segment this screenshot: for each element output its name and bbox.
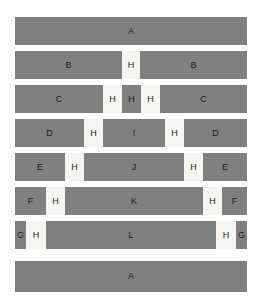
bar-row: EHJHE — [15, 153, 247, 181]
bar-segment-h: H — [122, 85, 141, 113]
bar-segment-a: A — [15, 17, 247, 45]
bar-segment-c: C — [160, 85, 247, 113]
bar-row: BHB — [15, 51, 247, 79]
bar-segment-k: K — [65, 187, 203, 215]
bar-segment-c: C — [15, 85, 103, 113]
bar-segment-h: H — [141, 85, 160, 113]
bar-segment-a: A — [15, 261, 247, 292]
bar-row: FHKHF — [15, 187, 247, 215]
bar-segment-h: H — [216, 221, 236, 249]
segmented-bar-diagram: ABHBCHHHCDHIHDEHJHEFHKHFGHLHGA — [0, 0, 261, 306]
bar-segment-b: B — [15, 51, 122, 79]
bar-segment-h: H — [165, 119, 184, 147]
bar-segment-h: H — [103, 85, 122, 113]
bar-segment-h: H — [26, 221, 46, 249]
bar-row: GHLHG — [15, 221, 247, 249]
bar-segment-j: J — [84, 153, 184, 181]
bar-segment-h: H — [46, 187, 65, 215]
bar-row: A — [15, 261, 247, 292]
bar-segment-h: H — [203, 187, 222, 215]
bar-row: A — [15, 17, 247, 45]
bar-segment-g: G — [236, 221, 247, 249]
bar-segment-f: F — [222, 187, 247, 215]
bar-segment-i: I — [103, 119, 165, 147]
bar-segment-h: H — [184, 153, 203, 181]
bar-segment-g: G — [15, 221, 26, 249]
bar-segment-e: E — [203, 153, 247, 181]
bar-segment-d: D — [184, 119, 247, 147]
bar-segment-d: D — [15, 119, 84, 147]
bar-segment-h: H — [65, 153, 84, 181]
bar-segment-f: F — [15, 187, 46, 215]
bar-segment-b: B — [140, 51, 247, 79]
bar-row: CHHHC — [15, 85, 247, 113]
bar-row: DHIHD — [15, 119, 247, 147]
bar-segment-h: H — [122, 51, 140, 79]
bar-segment-l: L — [46, 221, 216, 249]
bar-segment-h: H — [84, 119, 103, 147]
bar-segment-e: E — [15, 153, 65, 181]
